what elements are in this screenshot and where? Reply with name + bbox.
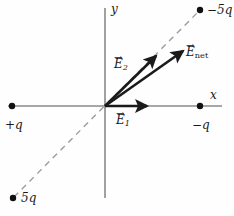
vector-label-e2: →E2 xyxy=(114,58,128,71)
vector-label-e1-body: →E xyxy=(116,114,125,126)
vector-label-e1-subscript: 1 xyxy=(125,118,130,128)
charge-label-plus-q: +q xyxy=(5,119,23,131)
vector-label-e2-body: →E xyxy=(114,58,123,70)
charge-dot-plus-5q xyxy=(10,195,16,201)
vector-label-enet-subscript: net xyxy=(195,50,209,60)
charge-label-minus-q: −q xyxy=(192,119,210,131)
vector-label-enet-body: →E xyxy=(186,46,195,58)
vector-label-e2-subscript: 2 xyxy=(123,62,128,72)
y-axis-label: y xyxy=(111,3,118,15)
vector-accent-icon: → xyxy=(114,53,122,63)
vector-label-enet: →Enet xyxy=(186,46,208,59)
charge-dot-minus-q xyxy=(197,103,203,109)
charge-dot-plus-q xyxy=(9,103,15,109)
charge-label-minus-5q: −5q xyxy=(207,4,232,16)
vector-label-e1: →E1 xyxy=(116,114,130,127)
vector-accent-icon: → xyxy=(186,41,194,51)
vector-accent-icon: → xyxy=(116,109,124,119)
charge-dot-minus-5q xyxy=(197,7,203,13)
charge-label-plus-5q: 5q xyxy=(21,192,36,204)
vector-arrow-e2 xyxy=(105,56,156,106)
electric-field-diagram: x y +q −q −5q 5q →E1 →E2 →Enet xyxy=(0,0,234,216)
x-axis-label: x xyxy=(210,89,217,101)
